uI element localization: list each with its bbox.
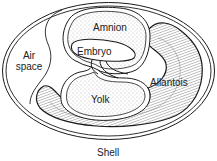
shell-label: Shell xyxy=(97,147,119,158)
yolk-label: Yolk xyxy=(91,94,110,105)
allantois-label: Allantois xyxy=(150,77,188,88)
embryo-label: Embryo xyxy=(77,46,111,57)
air-space-label-line1: Air xyxy=(19,50,39,61)
air-space-label-line2: space xyxy=(13,61,45,72)
amnion-label: Amnion xyxy=(93,22,127,33)
